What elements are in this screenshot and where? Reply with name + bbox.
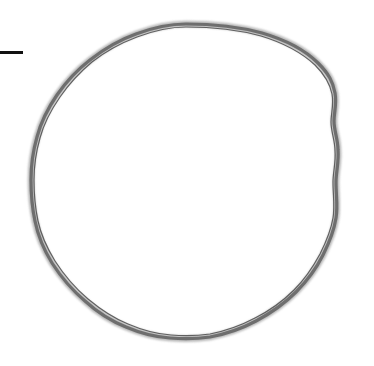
canvas-background [0,0,374,366]
sketch-drawing [0,0,374,366]
sketch-canvas [0,0,374,366]
